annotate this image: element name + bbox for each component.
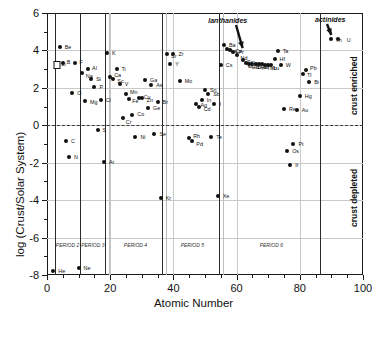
y-tick-mark (42, 88, 47, 89)
data-label-au: Au (302, 108, 309, 113)
y-tick-mark (42, 50, 47, 51)
x-minor-tick (347, 275, 348, 278)
x-tick-label: 80 (294, 282, 306, 294)
data-label-s: S (103, 128, 107, 133)
data-label-os: Os (292, 149, 299, 154)
data-point-tl (301, 72, 305, 76)
y-minor-tick (44, 219, 47, 220)
data-point-co (130, 113, 134, 117)
data-point-ar (102, 160, 106, 164)
data-point-o (70, 91, 74, 95)
data-point-sc (111, 77, 115, 81)
data-point-c (64, 139, 68, 143)
data-point-y (168, 62, 172, 66)
data-point-cr (121, 116, 125, 120)
period-label: PERIOD 4 (124, 242, 147, 248)
x-minor-tick (268, 275, 269, 278)
data-point-f (73, 61, 77, 65)
data-label-pb: Pb (310, 66, 317, 71)
region-label: crust enriched (349, 56, 359, 115)
data-point-se (152, 132, 156, 136)
data-label-k: K (112, 51, 116, 56)
data-point-si (89, 77, 93, 81)
data-label-si: Si (96, 77, 101, 82)
x-minor-tick (284, 275, 285, 278)
data-label-he: He (58, 269, 65, 274)
data-point-ge (146, 106, 150, 110)
x-minor-tick (126, 275, 127, 278)
data-label-al: Al (92, 66, 97, 71)
data-label-ge: Ge (153, 106, 160, 111)
x-minor-tick (221, 275, 222, 278)
y-tick-mark (42, 238, 47, 239)
data-point-mg (83, 99, 87, 103)
data-label-in: In (207, 98, 212, 103)
period-label: PERIOD 6 (260, 242, 283, 248)
annotation-arrow (230, 19, 249, 54)
y-tick-mark (42, 13, 47, 14)
data-label-pt: Pt (298, 142, 303, 147)
x-minor-tick (142, 275, 143, 278)
data-label-ir: Ir (295, 163, 298, 168)
data-label-zn: Zn (147, 98, 153, 103)
data-label-n: N (74, 155, 78, 160)
y-tick-label: 2 (7, 82, 39, 94)
data-label-te: Te (216, 135, 222, 140)
data-label-cd: Cd (204, 107, 211, 112)
data-point-as (149, 83, 153, 87)
data-label-xe: Xe (223, 194, 230, 199)
x-tick-mark (300, 275, 301, 280)
x-tick-label: 100 (354, 282, 372, 294)
data-point-pt (291, 142, 295, 146)
data-label-i: I (219, 102, 221, 107)
data-point-na (80, 71, 84, 75)
data-point-mo (178, 79, 182, 83)
data-point-hg (298, 94, 302, 98)
gridline-horizontal (47, 200, 363, 201)
x-minor-tick (94, 275, 95, 278)
data-label-rh: Rh (193, 134, 200, 139)
data-point-zn (140, 96, 144, 100)
data-point-pb (304, 68, 308, 72)
data-point-he (51, 269, 55, 273)
period-divider-line (162, 13, 163, 275)
data-label-mo: Mo (185, 79, 193, 84)
data-label-tl: Tl (307, 73, 312, 78)
data-point-kr (159, 196, 163, 200)
region-label: crust depleted (349, 169, 359, 227)
data-point-au (295, 108, 299, 112)
data-point-mn (124, 92, 128, 96)
data-point-cl (99, 98, 103, 102)
x-minor-tick (331, 275, 332, 278)
y-minor-tick (44, 144, 47, 145)
x-minor-tick (158, 275, 159, 278)
period-divider-line (80, 13, 81, 275)
data-label-as: As (156, 83, 162, 88)
data-point-i (212, 102, 216, 106)
data-label-ar: Ar (109, 160, 114, 165)
period-divider-line (55, 13, 56, 275)
data-label-sb: Sb (213, 92, 220, 97)
data-label-cr: Cr (126, 120, 132, 125)
y-tick-label: 0 (7, 119, 39, 131)
data-point-ne (77, 266, 81, 270)
data-label-ni: Ni (140, 135, 145, 140)
x-tick-mark (47, 275, 48, 280)
data-label-mn: Mn (130, 90, 138, 95)
data-point-bi (307, 80, 311, 84)
x-tick-mark (110, 275, 111, 280)
period-divider-line (320, 13, 321, 275)
data-label-be: Be (65, 45, 72, 50)
y-tick-mark (42, 163, 47, 164)
data-point-in (200, 98, 204, 102)
data-point-be (58, 45, 62, 49)
data-point-al (86, 67, 90, 71)
gridline-horizontal (47, 50, 363, 51)
plot-area (47, 13, 363, 275)
data-point-fe (127, 97, 131, 101)
x-tick-mark (237, 275, 238, 280)
data-label-br: Br (163, 100, 168, 105)
data-label-c: C (71, 139, 75, 144)
x-minor-tick (316, 275, 317, 278)
y-tick-mark (42, 200, 47, 201)
